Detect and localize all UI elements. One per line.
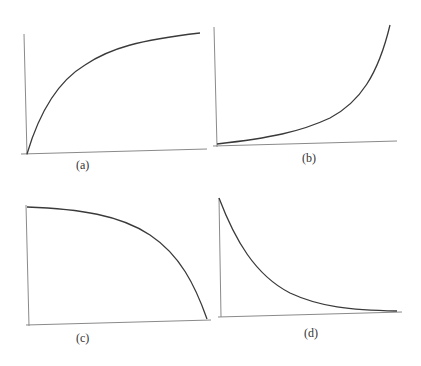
panel-b-x-axis xyxy=(213,141,397,146)
panel-a: (a) xyxy=(21,33,207,172)
panel-a-curve xyxy=(27,33,200,154)
panel-a-y-axis xyxy=(24,34,27,155)
panel-c-y-axis xyxy=(26,205,29,326)
panel-b: (b) xyxy=(213,25,397,165)
panel-c-label: (c) xyxy=(76,331,89,345)
panel-c-x-axis xyxy=(26,320,211,325)
figure: (a) (b) (c) (d) xyxy=(0,0,421,366)
panel-d-y-axis xyxy=(219,198,221,317)
panel-d-label: (d) xyxy=(304,326,318,340)
panel-d: (d) xyxy=(218,198,402,340)
panel-c: (c) xyxy=(26,205,211,345)
panel-d-x-axis xyxy=(218,312,402,317)
panel-a-label: (a) xyxy=(76,158,89,172)
panel-b-y-axis xyxy=(214,27,217,147)
panel-c-curve xyxy=(27,207,207,319)
panel-b-label: (b) xyxy=(302,151,316,165)
panel-d-curve xyxy=(219,198,397,311)
panel-b-curve xyxy=(217,25,390,144)
panel-a-x-axis xyxy=(21,149,207,154)
